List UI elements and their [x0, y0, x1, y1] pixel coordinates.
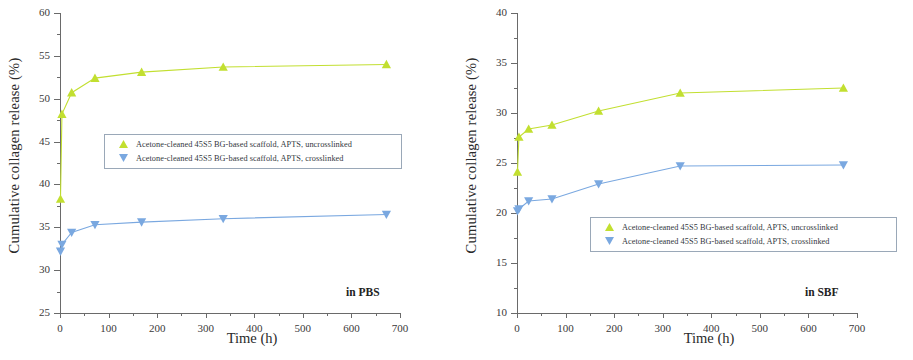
x-tick-minor	[590, 313, 591, 316]
x-tick	[711, 313, 712, 318]
x-tick	[614, 313, 615, 318]
legend-item-crosslinked: Acetone-cleaned 45S5 BG-based scaffold, …	[596, 234, 891, 248]
y-tick-label: 25	[24, 306, 50, 318]
x-tick-minor	[327, 313, 328, 316]
series-layer	[517, 13, 857, 313]
medium-annotation-pbs: in PBS	[346, 286, 380, 298]
x-tick	[400, 313, 401, 318]
x-tick-minor	[84, 313, 85, 316]
triangle-up-marker-icon	[110, 139, 136, 149]
legend-label-crosslinked: Acetone-cleaned 45S5 BG-based scaffold, …	[136, 154, 344, 163]
y-tick-label: 45	[24, 135, 50, 147]
series-line	[517, 88, 843, 172]
x-tick	[303, 313, 304, 318]
y-tick-label: 55	[24, 49, 50, 61]
y-tick-label: 30	[481, 106, 507, 118]
x-tick-minor	[230, 313, 231, 316]
y-tick-label: 20	[481, 206, 507, 218]
y-tick-label: 15	[481, 256, 507, 268]
legend-label-uncrosslinked: Acetone-cleaned 45S5 BG-based scaffold, …	[622, 223, 838, 232]
x-tick	[857, 313, 858, 318]
data-point-marker	[90, 221, 99, 229]
x-tick	[566, 313, 567, 318]
chart-panel-sbf: Cumulative collagen release (%) 10152025…	[457, 0, 913, 360]
triangle-down-marker-icon	[110, 153, 136, 163]
x-axis-title-left: Time (h)	[0, 330, 456, 347]
x-tick-minor	[833, 313, 834, 316]
x-tick	[351, 313, 352, 318]
x-tick	[109, 313, 110, 318]
x-tick-minor	[181, 313, 182, 316]
triangle-down-marker-icon	[596, 236, 622, 246]
data-point-marker	[594, 180, 603, 188]
y-tick-label: 35	[24, 220, 50, 232]
y-tick-label: 50	[24, 92, 50, 104]
x-tick	[760, 313, 761, 318]
y-tick-label: 30	[24, 263, 50, 275]
x-tick	[60, 313, 61, 318]
legend-left: Acetone-cleaned 45S5 BG-based scaffold, …	[104, 134, 402, 169]
legend-item-uncrosslinked: Acetone-cleaned 45S5 BG-based scaffold, …	[596, 220, 891, 234]
x-tick-minor	[784, 313, 785, 316]
y-tick-label: 40	[481, 6, 507, 18]
x-tick-minor	[279, 313, 280, 316]
data-point-marker	[67, 88, 76, 96]
y-tick-label: 60	[24, 6, 50, 18]
legend-item-crosslinked: Acetone-cleaned 45S5 BG-based scaffold, …	[110, 151, 396, 165]
series-line	[60, 64, 386, 199]
chart-panel-pbs: Cumulative collagen release (%) 25303540…	[0, 0, 456, 360]
legend-right: Acetone-cleaned 45S5 BG-based scaffold, …	[590, 217, 897, 252]
series-line	[517, 165, 843, 211]
data-point-marker	[513, 167, 522, 175]
figure-canvas: Cumulative collagen release (%) 25303540…	[0, 0, 913, 360]
x-tick-minor	[541, 313, 542, 316]
medium-annotation-sbf: in SBF	[805, 286, 839, 298]
x-tick-minor	[638, 313, 639, 316]
x-axis-title-right: Time (h)	[457, 330, 913, 347]
legend-label-uncrosslinked: Acetone-cleaned 45S5 BG-based scaffold, …	[136, 140, 352, 149]
x-tick-minor	[687, 313, 688, 316]
legend-item-uncrosslinked: Acetone-cleaned 45S5 BG-based scaffold, …	[110, 137, 396, 151]
y-tick-label: 10	[481, 306, 507, 318]
x-tick	[157, 313, 158, 318]
legend-label-crosslinked: Acetone-cleaned 45S5 BG-based scaffold, …	[622, 237, 830, 246]
data-point-marker	[56, 194, 65, 202]
y-tick-label: 40	[24, 177, 50, 189]
x-tick	[254, 313, 255, 318]
x-tick	[206, 313, 207, 318]
triangle-up-marker-icon	[596, 222, 622, 232]
x-tick	[517, 313, 518, 318]
x-tick-minor	[376, 313, 377, 316]
data-point-marker	[56, 248, 65, 256]
x-tick-minor	[133, 313, 134, 316]
x-tick	[663, 313, 664, 318]
y-tick-label: 25	[481, 156, 507, 168]
y-tick-label: 35	[481, 56, 507, 68]
plot-area-right: 101520253035400100200300400500600700	[517, 13, 857, 313]
data-point-marker	[57, 110, 66, 118]
x-tick	[808, 313, 809, 318]
x-tick-minor	[736, 313, 737, 316]
